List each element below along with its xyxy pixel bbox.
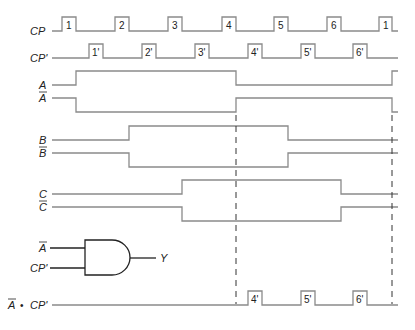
- timing-diagram-svg: CP 1 2 3 4 5 6 1 CP' 1' 2' 3' 4' 5' 6' A…: [0, 0, 415, 330]
- gate-input-a-label: A: [38, 242, 46, 254]
- cp-label: CP: [30, 25, 46, 37]
- c-waveform: [52, 180, 398, 194]
- c-label: C: [39, 188, 47, 200]
- b-bar-waveform: [52, 153, 398, 167]
- b-waveform: [52, 126, 398, 140]
- cp-prime-label: CP': [30, 52, 48, 64]
- svg-text:5': 5': [304, 47, 312, 58]
- svg-text:4': 4': [251, 294, 259, 305]
- b-bar-label: B: [39, 147, 46, 159]
- svg-text:3: 3: [172, 20, 178, 31]
- output-pulse-labels: 4' 5' 6': [251, 294, 364, 305]
- cp-waveform: [52, 17, 398, 31]
- svg-text:1': 1': [92, 47, 100, 58]
- svg-text:5': 5': [304, 294, 312, 305]
- output-cp-label: CP': [30, 299, 48, 311]
- cp-prime-waveform: [52, 44, 398, 58]
- and-gate: A CP' Y: [30, 240, 168, 275]
- output-a-label: A: [7, 299, 15, 311]
- svg-text:5: 5: [278, 20, 284, 31]
- svg-text:3': 3': [198, 47, 206, 58]
- output-and-dot: •: [20, 300, 24, 311]
- svg-text:6: 6: [331, 20, 337, 31]
- output-waveform: [52, 291, 398, 305]
- c-bar-label: C: [39, 201, 47, 213]
- c-bar-waveform: [52, 207, 398, 221]
- gate-output-label: Y: [160, 252, 168, 264]
- timing-diagram: CP 1 2 3 4 5 6 1 CP' 1' 2' 3' 4' 5' 6' A…: [0, 0, 415, 330]
- svg-text:4: 4: [226, 20, 232, 31]
- svg-text:4': 4': [251, 47, 259, 58]
- svg-text:1: 1: [383, 20, 389, 31]
- svg-text:2: 2: [119, 20, 125, 31]
- svg-text:1: 1: [66, 20, 72, 31]
- svg-text:6': 6': [356, 294, 364, 305]
- a-bar-label: A: [38, 92, 46, 104]
- b-label: B: [39, 134, 46, 146]
- a-waveform: [52, 71, 398, 85]
- a-label: A: [38, 79, 46, 91]
- svg-text:2': 2': [145, 47, 153, 58]
- cp-prime-pulse-labels: 1' 2' 3' 4' 5' 6': [92, 47, 364, 58]
- gate-input-cp-label: CP': [30, 262, 48, 274]
- svg-text:6': 6': [356, 47, 364, 58]
- a-bar-waveform: [52, 98, 398, 112]
- and-gate-body: [85, 240, 130, 275]
